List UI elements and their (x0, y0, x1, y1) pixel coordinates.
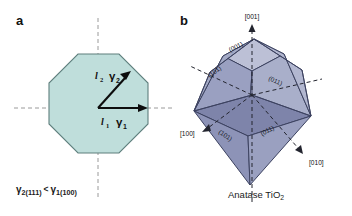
gamma-2-symbol-sub: 2 (116, 77, 120, 84)
caption-b-sub: 2 (280, 194, 284, 201)
direction-label-100: [100] (180, 130, 195, 138)
panel-a-caption: γ2(111)<γ1(100) (16, 185, 77, 196)
octagon-shape (49, 54, 148, 153)
axis-001-arrowhead (249, 24, 256, 32)
gamma-2-length-label: l (95, 70, 98, 81)
gamma-2-length-sub: 2 (100, 76, 103, 83)
caption-relation: < (42, 184, 51, 194)
caption-gamma-right-sub: 1(100) (56, 188, 77, 197)
gamma-1-symbol-sub: 1 (123, 123, 127, 130)
panel-a: a l 1 γ 1 l 2 γ (0, 0, 176, 216)
figure-root: a l 1 γ 1 l 2 γ (0, 0, 352, 216)
gamma-1-length-label: l (101, 116, 104, 127)
axis-010-arrowhead (295, 145, 303, 154)
gamma-1-symbol: γ (116, 116, 123, 128)
caption-b-main: Anatase TiO (228, 189, 280, 200)
direction-label-001: [001] (245, 13, 260, 21)
direction-label-010: [010] (309, 159, 324, 167)
panel-b-caption: Anatase TiO2 (228, 190, 284, 202)
panel-b: b (176, 0, 352, 216)
panel-b-graphic: (001) (101) (011) (101) (011) [001] [100… (176, 0, 352, 216)
gamma-2-symbol: γ (109, 70, 116, 82)
caption-gamma-left-sub: 2(111) (22, 188, 42, 197)
panel-a-graphic: l 1 γ 1 l 2 γ 2 (0, 0, 176, 216)
gamma-1-length-sub: 1 (106, 122, 109, 129)
